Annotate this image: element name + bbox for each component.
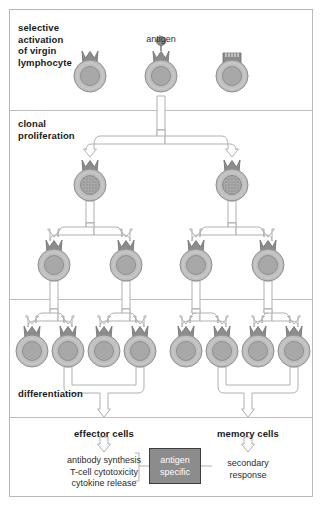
clonal-selection-diagram: selective activation of virgin lymphocyt… xyxy=(0,0,323,506)
effector-function-0: antibody synthesis xyxy=(42,455,166,467)
section-label-selective-activation: selective activation of virgin lymphocyt… xyxy=(18,22,72,68)
memory-cells-heading: memory cells xyxy=(202,428,294,440)
antigen-specific-box: antigen specific xyxy=(149,448,201,484)
effector-cells-heading: effector cells xyxy=(58,428,150,440)
effector-function-1: T-cell cytotoxicity xyxy=(42,467,166,479)
section-label-clonal-proliferation: clonal proliferation xyxy=(18,118,75,141)
section-label-differentiation: differentiation xyxy=(18,388,83,400)
effector-function-2: cytokine release xyxy=(42,478,166,490)
secondary-response-text: secondary response xyxy=(202,458,294,481)
antigen-label: antigen xyxy=(121,34,201,44)
effector-functions-list: antibody synthesisT-cell cytotoxicitycyt… xyxy=(42,455,166,490)
